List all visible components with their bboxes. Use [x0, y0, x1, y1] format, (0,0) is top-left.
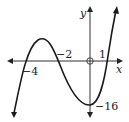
tick-label-neg4: −4 — [22, 65, 38, 78]
tick-label-neg16: −16 — [95, 100, 118, 113]
y-axis-label: y — [79, 7, 87, 20]
curve-arrow-down — [11, 112, 17, 118]
polynomial-graph: y x −4 −2 1 −16 — [0, 0, 129, 122]
x-axis-label: x — [116, 63, 123, 76]
curve-arrow-up — [113, 6, 119, 14]
tick-label-neg2: −2 — [56, 48, 72, 61]
tick-label-1: 1 — [99, 48, 106, 61]
